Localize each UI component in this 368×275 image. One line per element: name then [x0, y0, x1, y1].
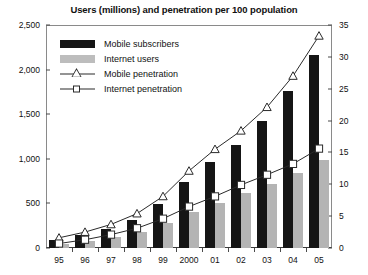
marker-mobile-penetration-01	[211, 145, 219, 153]
chart-title: Users (millions) and penetration per 100…	[0, 4, 368, 15]
legend-item-3: Internet penetration	[60, 81, 182, 96]
marker-mobile-penetration-98	[133, 209, 141, 217]
x-axis-tick-95: 95	[54, 255, 63, 265]
y-axis-left-tick: 500	[26, 198, 46, 208]
y-axis-right-tick: 35	[332, 20, 348, 30]
marker-internet-penetration-95	[55, 240, 62, 247]
legend-item-2: Mobile penetration	[60, 66, 182, 81]
x-axis-tick-96: 96	[80, 255, 89, 265]
line-internet-penetration	[59, 149, 319, 244]
marker-mobile-penetration-97	[107, 220, 115, 228]
x-axis-tick-02: 02	[236, 255, 245, 265]
marker-mobile-penetration-05	[315, 32, 323, 40]
legend-label: Internet penetration	[104, 84, 182, 94]
x-axis-separator	[306, 248, 307, 252]
marker-internet-penetration-04	[289, 160, 296, 167]
marker-internet-penetration-2000	[185, 203, 192, 210]
x-axis-separator	[176, 248, 177, 252]
x-axis-tick-97: 97	[106, 255, 115, 265]
legend-swatch-gray-icon	[60, 55, 95, 63]
marker-internet-penetration-03	[263, 171, 270, 178]
y-axis-left-tick: 0	[35, 243, 46, 253]
marker-mobile-penetration-04	[289, 72, 297, 80]
x-axis-tick-99: 99	[158, 255, 167, 265]
marker-internet-penetration-96	[81, 236, 88, 243]
x-axis-separator	[150, 248, 151, 252]
legend-label: Mobile subscribers	[104, 39, 179, 49]
marker-internet-penetration-98	[133, 225, 140, 232]
marker-internet-penetration-99	[159, 215, 166, 222]
chart-container: Users (millions) and penetration per 100…	[0, 0, 368, 275]
x-axis-tick-98: 98	[132, 255, 141, 265]
legend-line-triangle-icon	[60, 68, 95, 79]
x-axis-separator	[280, 248, 281, 252]
x-axis-separator	[254, 248, 255, 252]
x-axis-tick-01: 01	[210, 255, 219, 265]
x-axis-tick-03: 03	[262, 255, 271, 265]
legend-swatch-black-icon	[60, 40, 95, 48]
x-axis-separator	[124, 248, 125, 252]
y-axis-right-tick: 0	[332, 243, 344, 253]
x-axis-separator	[228, 248, 229, 252]
marker-internet-penetration-02	[237, 181, 244, 188]
x-axis-tick-2000: 2000	[180, 255, 199, 265]
x-axis-separator	[72, 248, 73, 252]
y-axis-left-tick: 1,500	[19, 109, 46, 119]
legend-label: Internet users	[104, 54, 159, 64]
x-axis-separator	[202, 248, 203, 252]
legend-item-1: Internet users	[60, 51, 182, 66]
legend-line-square-icon	[60, 83, 95, 94]
y-axis-right-tick: 20	[332, 116, 348, 126]
marker-internet-penetration-05	[315, 145, 322, 152]
y-axis-right-tick: 5	[332, 211, 344, 221]
legend-item-0: Mobile subscribers	[60, 36, 182, 51]
y-axis-right-tick: 30	[332, 52, 348, 62]
legend-label: Mobile penetration	[104, 69, 178, 79]
y-axis-left-tick: 1,000	[19, 154, 46, 164]
x-axis-tick-04: 04	[288, 255, 297, 265]
chart-legend: Mobile subscribersInternet usersMobile p…	[60, 36, 182, 96]
legend-triangle-marker-icon	[73, 69, 81, 76]
marker-internet-penetration-97	[107, 231, 114, 238]
y-axis-right-tick: 10	[332, 179, 348, 189]
y-axis-left-tick: 2,000	[19, 65, 46, 75]
marker-internet-penetration-01	[211, 193, 218, 200]
legend-square-marker-icon	[73, 85, 80, 92]
x-axis-separator	[98, 248, 99, 252]
y-axis-right-tick: 15	[332, 147, 348, 157]
y-axis-right-tick: 25	[332, 84, 348, 94]
x-axis-tick-05: 05	[314, 255, 323, 265]
y-axis-left-tick: 2,500	[19, 20, 46, 30]
